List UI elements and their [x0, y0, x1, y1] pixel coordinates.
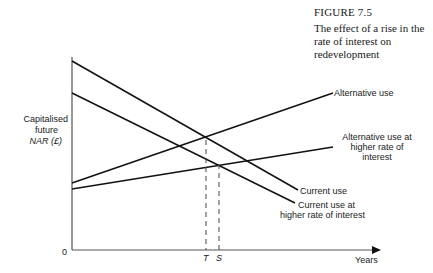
chart: T S 0 Years Capitalised future NAR (£) A…: [0, 0, 433, 273]
label-current-use-higher-2: higher rate of interest: [280, 210, 366, 220]
y-axis-label-line3: NAR (£): [29, 136, 62, 146]
series-current-use-higher-rate: [72, 93, 295, 203]
series-alternative-use: [72, 93, 333, 183]
y-axis-label-line2: future: [35, 125, 58, 135]
label-alternative-use-higher-1: Alternative use at: [342, 132, 412, 142]
label-alternative-use-higher-3: interest: [362, 152, 392, 162]
y-axis-label-line1: Capitalised: [23, 114, 68, 124]
label-alternative-use: Alternative use: [334, 88, 394, 98]
label-current-use: Current use: [300, 186, 347, 196]
label-current-use-higher-1: Current use at: [298, 200, 356, 210]
origin-label: 0: [62, 247, 67, 257]
x-axis-label: Years: [355, 255, 378, 265]
marker-T-label: T: [203, 253, 210, 263]
marker-S-label: S: [216, 253, 222, 263]
series-alternative-use-higher-rate: [72, 147, 333, 189]
label-alternative-use-higher-2: higher rate of: [350, 142, 404, 152]
x-axis-arrow-icon: [372, 246, 381, 254]
